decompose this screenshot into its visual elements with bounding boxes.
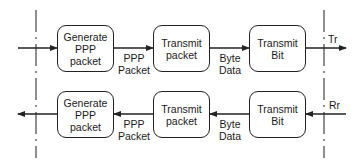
box-label: Transmit packet xyxy=(161,37,201,61)
rx-transmit-packet-box: Transmit packet xyxy=(153,91,210,138)
ppp-pipeline-diagram: Generate PPP packet Transmit packet Tran… xyxy=(0,0,363,162)
tx-transmit-bit-box: Transmit Bit xyxy=(249,25,306,72)
rx-byte-data-label: Byte Data xyxy=(212,118,248,142)
tx-interface-label: Tr xyxy=(328,33,338,45)
box-label: Generate PPP packet xyxy=(64,97,108,133)
rx-transmit-bit-box: Transmit Bit xyxy=(249,91,306,138)
tx-byte-data-label: Byte Data xyxy=(212,52,248,76)
box-label: Transmit Bit xyxy=(257,103,297,127)
tx-transmit-packet-box: Transmit packet xyxy=(153,25,210,72)
rx-generate-ppp-packet-box: Generate PPP packet xyxy=(57,91,114,138)
rx-interface-label: Rr xyxy=(329,99,340,111)
tx-ppp-packet-label: PPP Packet xyxy=(116,52,152,76)
rx-ppp-packet-label: PPP Packet xyxy=(116,118,152,142)
box-label: Transmit packet xyxy=(161,103,201,127)
box-label: Generate PPP packet xyxy=(64,31,108,67)
box-label: Transmit Bit xyxy=(257,37,297,61)
tx-generate-ppp-packet-box: Generate PPP packet xyxy=(57,25,114,72)
